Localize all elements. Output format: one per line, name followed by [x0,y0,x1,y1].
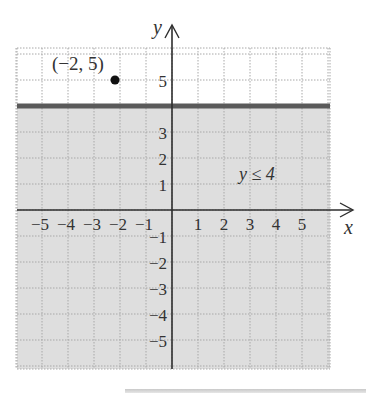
y-tick-label: 5 [159,72,168,91]
x-tick-label: 2 [220,215,229,234]
y-tick-label: −4 [149,306,168,325]
y-axis-label: y [151,16,162,39]
y-tick-label: −3 [149,280,167,299]
x-tick-label: −3 [83,215,101,234]
y-tick-label: 2 [159,150,168,169]
point-marker [111,76,120,85]
y-tick-label: −5 [149,332,167,351]
y-tick-label: −2 [149,254,167,273]
x-tick-label: 5 [298,215,307,234]
x-tick-label: −2 [109,215,127,234]
inequality-graph: −5−4−3−2−1123455321−1−2−3−4−5 (−2, 5) y … [0,0,366,393]
x-tick-label: −5 [31,215,49,234]
x-tick-label: 3 [246,215,255,234]
x-axis-label: x [343,216,353,238]
y-tick-label: 1 [159,176,168,195]
shaded-region [17,106,330,369]
x-tick-label: 4 [272,215,281,234]
x-tick-label: −4 [57,215,76,234]
region-label: y ≤ 4 [237,164,275,184]
y-tick-label: −1 [149,228,167,247]
point-label: (−2, 5) [52,53,104,75]
bottom-edge-bar [125,389,366,393]
x-tick-label: 1 [194,215,203,234]
y-tick-label: 3 [159,124,168,143]
